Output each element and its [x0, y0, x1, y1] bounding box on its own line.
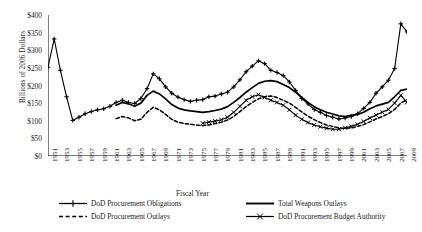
x-tick-label: 1975 — [200, 148, 208, 162]
x-tick-label: 2001 — [360, 148, 368, 162]
legend-swatch — [58, 198, 88, 209]
x-tick-label: 2007 — [398, 148, 406, 162]
y-tick-label: $300 — [27, 46, 42, 55]
legend-swatch — [245, 211, 275, 222]
y-tick-label: $200 — [27, 81, 42, 90]
legend-swatch — [245, 198, 275, 209]
x-tick-label: 1999 — [348, 148, 356, 162]
legend-key-solid-x — [245, 211, 275, 222]
chart-figure: Billions of 2006 Dollars $0$50$100$150$2… — [0, 0, 422, 232]
x-tick-label: 1991 — [299, 148, 307, 162]
x-tick-label: 1951 — [51, 148, 59, 162]
x-tick-label: 1987 — [274, 148, 282, 162]
x-tick-label: 1961 — [113, 148, 121, 162]
x-tick-label: 1989 — [286, 148, 294, 162]
y-tick-label: $0 — [35, 152, 42, 161]
legend-label: Total Weapons Outlays — [278, 198, 347, 209]
legend-key-solid-plus — [58, 198, 88, 209]
legend-column-right: Total Weapons OutlaysDoD Procurement Bud… — [245, 197, 385, 223]
x-tick-label: 1963 — [125, 148, 133, 162]
plot-area — [48, 15, 407, 156]
y-tick-label: $400 — [27, 11, 42, 20]
legend-label: DoD Procurement Budget Authority — [278, 211, 385, 222]
x-tick-label: 1983 — [249, 148, 257, 162]
y-tick-label: $50 — [31, 134, 42, 143]
y-tick-label: $350 — [27, 28, 42, 37]
chart-svg — [48, 15, 407, 156]
x-tick-label: 1993 — [311, 148, 319, 162]
x-tick-label: 1957 — [88, 148, 96, 162]
legend-item-left-1[interactable]: DoD Procurement Outlays — [58, 210, 181, 223]
x-tick-label: 1971 — [175, 148, 183, 162]
legend-label: DoD Procurement Outlays — [91, 211, 170, 222]
x-tick-label: 1965 — [138, 148, 146, 162]
x-tick-label: 1955 — [76, 148, 84, 162]
legend-column-left: DoD Procurement ObligationsDoD Procureme… — [58, 197, 181, 223]
legend-item-right-0[interactable]: Total Weapons Outlays — [245, 197, 385, 210]
y-tick-label: $250 — [27, 63, 42, 72]
x-tick-label: 2009 — [410, 148, 418, 162]
y-tick-label: $100 — [27, 116, 42, 125]
y-axis-tick-labels: $0$50$100$150$200$250$300$350$400 — [6, 0, 42, 232]
x-tick-label: 1969 — [162, 148, 170, 162]
legend-key-solid-thick — [245, 198, 275, 209]
x-tick-label: 1981 — [237, 148, 245, 162]
x-tick-label: 1973 — [187, 148, 195, 162]
x-tick-label: 1959 — [101, 148, 109, 162]
legend-item-right-1[interactable]: DoD Procurement Budget Authority — [245, 210, 385, 223]
x-tick-label: 2005 — [385, 148, 393, 162]
legend-label: DoD Procurement Obligations — [91, 198, 181, 209]
x-tick-label: 1953 — [63, 148, 71, 162]
x-tick-label: 1979 — [224, 148, 232, 162]
legend-item-left-0[interactable]: DoD Procurement Obligations — [58, 197, 181, 210]
x-tick-label: 2003 — [373, 148, 381, 162]
y-tick-label: $150 — [27, 99, 42, 108]
series-1 — [116, 81, 407, 117]
legend-swatch — [58, 211, 88, 222]
x-tick-label: 1995 — [323, 148, 331, 162]
x-tick-label: 1997 — [336, 148, 344, 162]
x-tick-label: 1967 — [150, 148, 158, 162]
legend-key-dashed — [58, 211, 88, 222]
x-tick-label: 1977 — [212, 148, 220, 162]
axes — [48, 15, 407, 156]
x-tick-label: 1985 — [261, 148, 269, 162]
